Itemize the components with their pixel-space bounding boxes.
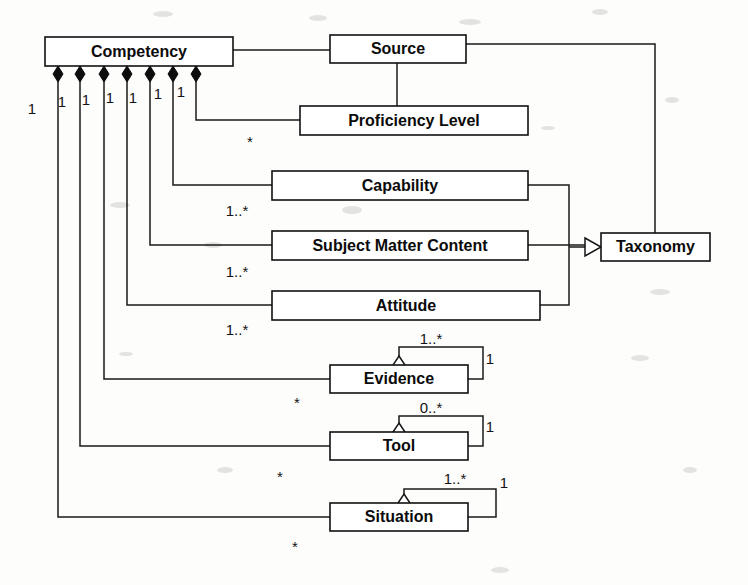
class-box-attitude[interactable]: Attitude — [272, 291, 540, 320]
multiplicity-capability-far: 1..* — [226, 202, 249, 219]
generalization-arrowhead-icon — [585, 238, 601, 256]
composition-diamond-icon-0 — [53, 66, 63, 82]
multiplicity-evidence-far: * — [294, 394, 300, 411]
class-name-evidence: Evidence — [364, 370, 434, 387]
multiplicity-situation-self-near: 1..* — [444, 470, 467, 487]
class-box-competency[interactable]: Competency — [45, 37, 233, 66]
composition-diamond-icon-4 — [145, 66, 155, 82]
uml-class-diagram-canvas: Competency Source Proficiency Level Capa… — [0, 0, 748, 585]
composition-diamonds — [53, 66, 201, 82]
multiplicity-competency-2: 1 — [82, 91, 90, 108]
multiplicity-competency-6: 1 — [177, 83, 185, 100]
composition-line-capability — [173, 66, 272, 185]
class-name-proficiency-level: Proficiency Level — [348, 112, 480, 129]
generalization-line-attitude — [540, 247, 569, 305]
class-box-source[interactable]: Source — [330, 35, 466, 63]
multiplicity-competency-3: 1 — [106, 89, 114, 106]
multiplicity-competency-4: 1 — [129, 89, 137, 106]
multiplicity-competency-1: 1 — [58, 93, 66, 110]
association-source-taxonomy — [466, 44, 655, 233]
multiplicity-tool-self-near: 0..* — [420, 399, 443, 416]
composition-multiplicity-labels: 1 1 1 1 1 1 1 — [28, 83, 185, 117]
class-box-evidence[interactable]: Evidence — [330, 365, 468, 393]
class-box-proficiency-level[interactable]: Proficiency Level — [300, 106, 528, 135]
multiplicity-situation-far: * — [292, 538, 298, 555]
class-box-subject-matter-content[interactable]: Subject Matter Content — [272, 231, 528, 260]
multiplicity-evidence-self-near: 1..* — [420, 330, 443, 347]
class-name-taxonomy: Taxonomy — [616, 238, 695, 255]
multiplicity-subject-matter-content-far: 1..* — [226, 263, 249, 280]
multiplicity-proficiency-far: * — [247, 133, 253, 150]
composition-line-proficiency — [196, 66, 300, 120]
class-name-subject-matter-content: Subject Matter Content — [312, 237, 488, 254]
class-name-tool: Tool — [383, 437, 416, 454]
composition-diamond-icon-5 — [168, 66, 178, 82]
multiplicity-tool-far: * — [277, 468, 283, 485]
class-name-capability: Capability — [362, 177, 439, 194]
class-name-competency: Competency — [91, 43, 187, 60]
diagram-svg: Competency Source Proficiency Level Capa… — [0, 0, 748, 585]
multiplicity-competency-0: 1 — [28, 100, 36, 117]
multiplicity-competency-5: 1 — [154, 85, 162, 102]
composition-line-subject-matter-content — [150, 66, 272, 245]
multiplicity-evidence-self-far: 1 — [486, 350, 494, 367]
class-box-taxonomy[interactable]: Taxonomy — [601, 233, 710, 261]
composition-line-evidence — [104, 66, 330, 379]
multiplicity-situation-self-far: 1 — [500, 474, 508, 491]
class-name-situation: Situation — [365, 508, 433, 525]
class-box-situation[interactable]: Situation — [330, 503, 468, 531]
composition-diamond-icon-1 — [75, 66, 85, 82]
self-association-multiplicity-labels: 1..* 1 0..* 1 1..* 1 — [420, 330, 508, 491]
composition-diamond-icon-3 — [122, 66, 132, 82]
class-box-capability[interactable]: Capability — [272, 171, 528, 200]
multiplicity-attitude-far: 1..* — [226, 321, 249, 338]
multiplicity-tool-self-far: 1 — [486, 418, 494, 435]
class-box-tool[interactable]: Tool — [330, 432, 468, 460]
composition-diamond-icon-6 — [191, 66, 201, 82]
class-name-source: Source — [371, 40, 425, 57]
composition-diamond-icon-2 — [99, 66, 109, 82]
class-name-attitude: Attitude — [376, 297, 437, 314]
generalization-line-capability — [528, 185, 569, 247]
